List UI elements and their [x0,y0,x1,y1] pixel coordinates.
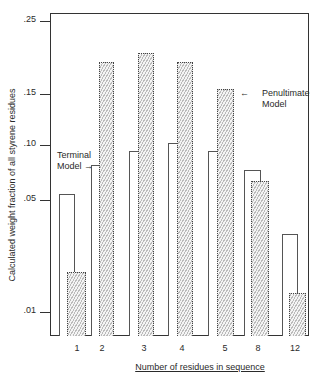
x-tick-label: 2 [92,343,112,353]
penultimate-arrow: ← [240,88,249,99]
penultimate-model-bar [67,272,86,336]
y-tick-label: .01 [6,305,36,315]
annotation-line: Model [262,99,310,110]
terminal-model-annotation: Terminal Model → [57,150,93,172]
annotation-line: Model → [57,161,93,172]
x-tick-label: 12 [285,343,305,353]
penultimate-model-bar [177,62,193,336]
x-tick-label: 4 [172,343,192,353]
penultimate-model-annotation: Penultimate Model [262,88,310,110]
x-tick-label: 5 [215,343,235,353]
penultimate-model-bar [138,53,154,336]
y-tick [40,21,50,22]
y-tick-label: .25 [6,14,36,24]
penultimate-model-bar [251,181,269,336]
penultimate-model-bar [289,293,306,336]
x-axis-label: Number of residues in sequence [110,362,290,372]
y-tick [40,94,50,95]
y-tick [40,145,50,146]
x-tick-label: 1 [67,343,87,353]
y-tick [40,200,50,201]
x-tick-label: 8 [248,343,268,353]
y-axis-label: Calculated weight fraction of all styren… [7,85,17,285]
penultimate-model-bar [99,62,114,336]
x-tick-label: 3 [134,343,154,353]
annotation-line: Penultimate [262,88,310,99]
annotation-line: Terminal [57,150,93,161]
penultimate-model-bar [217,89,234,336]
y-tick [40,312,50,313]
